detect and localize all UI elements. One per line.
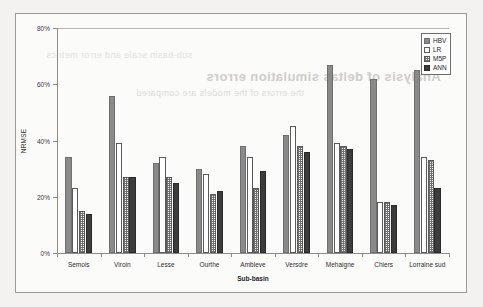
bar-m5p-ourthe	[210, 194, 216, 253]
bar-ann-mehaigne	[347, 149, 353, 253]
chart-figure: Analysis of deltas simulation errors the…	[15, 13, 467, 293]
bar-ann-viroin	[129, 177, 135, 253]
bar-m5p-semois	[79, 211, 85, 253]
bar-hbv-lesse	[153, 163, 159, 253]
bar-hbv-ourthe	[196, 169, 202, 253]
bar-ann-lorraine-sud	[434, 188, 440, 253]
bar-m5p-versdre	[297, 146, 303, 253]
x-axis-label-ambleve: Ambleve	[240, 261, 265, 268]
x-axis-tick	[57, 253, 58, 257]
bar-lr-semois	[72, 188, 78, 253]
y-axis-tick-label: 20%	[37, 193, 50, 200]
legend-swatch-ann-icon	[424, 65, 430, 71]
legend-label: M5P	[433, 54, 446, 63]
legend-label: HBV	[433, 36, 446, 45]
bar-ann-ourthe	[217, 191, 223, 253]
y-axis-tick	[53, 141, 57, 142]
x-axis-tick	[449, 253, 450, 257]
bar-lr-mehaigne	[334, 143, 340, 253]
bar-hbv-mehaigne	[327, 65, 333, 253]
x-axis-title: Sub-basin	[237, 275, 268, 282]
x-axis-tick	[188, 253, 189, 257]
y-axis-tick	[53, 28, 57, 29]
x-axis-tick	[318, 253, 319, 257]
x-axis-label-chiers: Chiers	[374, 261, 393, 268]
bar-lr-lorraine-sud	[421, 157, 427, 253]
x-axis-label-mehaigne: Mehaigne	[326, 261, 355, 268]
bar-hbv-ambleve	[240, 146, 246, 253]
y-axis-tick	[53, 197, 57, 198]
x-axis-tick	[275, 253, 276, 257]
legend-item-hbv[interactable]: HBV	[424, 36, 447, 45]
bar-lr-lesse	[159, 157, 165, 253]
bar-ann-chiers	[391, 205, 397, 253]
x-axis-tick	[101, 253, 102, 257]
legend-item-lr[interactable]: LR	[424, 45, 447, 54]
legend-item-m5p[interactable]: M5P	[424, 54, 447, 63]
x-axis-label-versdre: Versdre	[285, 261, 307, 268]
bar-ann-semois	[86, 214, 92, 253]
bar-m5p-lorraine-sud	[428, 160, 434, 253]
plot-area: NRMSE 0%20%40%60%80% SemoisViroinLesseOu…	[16, 14, 466, 292]
bar-ann-ambleve	[260, 171, 266, 253]
bar-lr-ambleve	[247, 157, 253, 253]
bar-m5p-chiers	[384, 202, 390, 253]
x-axis-label-ourthe: Ourthe	[200, 261, 220, 268]
bar-hbv-lorraine-sud	[414, 70, 420, 253]
legend-label: ANN	[433, 63, 447, 72]
bar-chart-plot: NRMSE 0%20%40%60%80% SemoisViroinLesseOu…	[57, 28, 449, 253]
legend-swatch-lr-icon	[424, 47, 430, 53]
y-axis-tick-label: 40%	[37, 137, 50, 144]
y-axis-tick-label: 60%	[37, 81, 50, 88]
bar-ann-lesse	[173, 183, 179, 253]
y-axis-title: NRMSE	[20, 128, 27, 152]
bar-m5p-viroin	[123, 177, 129, 253]
bar-m5p-ambleve	[253, 188, 259, 253]
bar-lr-versdre	[290, 126, 296, 253]
y-axis-tick-label: 0%	[41, 250, 50, 257]
x-axis-label-semois: Semois	[68, 261, 90, 268]
legend-swatch-hbv-icon	[424, 38, 430, 44]
x-axis-label-lorraine-sud: Lorraine sud	[409, 261, 445, 268]
x-axis-tick	[144, 253, 145, 257]
x-axis-tick	[231, 253, 232, 257]
bar-lr-viroin	[116, 143, 122, 253]
y-axis-tick-label: 80%	[37, 25, 50, 32]
bar-lr-ourthe	[203, 174, 209, 253]
legend-item-ann[interactable]: ANN	[424, 63, 447, 72]
y-axis-tick	[53, 84, 57, 85]
bar-hbv-chiers	[370, 79, 376, 253]
bar-m5p-mehaigne	[340, 146, 346, 253]
y-axis-line	[57, 28, 58, 253]
legend-label: LR	[433, 45, 441, 54]
x-axis-label-viroin: Viroin	[114, 261, 131, 268]
bar-hbv-versdre	[283, 135, 289, 253]
bar-hbv-semois	[65, 157, 71, 253]
x-axis-tick	[405, 253, 406, 257]
x-axis-line	[57, 253, 449, 254]
bar-m5p-lesse	[166, 177, 172, 253]
bar-ann-versdre	[304, 152, 310, 253]
x-axis-tick	[362, 253, 363, 257]
plot-top-border	[57, 28, 449, 29]
x-axis-label-lesse: Lesse	[157, 261, 174, 268]
bar-hbv-viroin	[109, 96, 115, 254]
legend-swatch-m5p-icon	[424, 56, 430, 62]
bar-lr-chiers	[377, 202, 383, 253]
chart-legend: HBVLRM5PANN	[421, 33, 451, 75]
